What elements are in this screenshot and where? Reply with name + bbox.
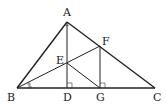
label-d: D (63, 91, 72, 104)
label-f: F (102, 35, 110, 48)
label-c: C (153, 91, 161, 104)
right-angle-mark-g (100, 83, 105, 88)
segment-bf (17, 46, 100, 88)
label-b: B (7, 91, 15, 104)
segment-ac (67, 22, 155, 88)
right-angle-mark-d (67, 83, 72, 88)
label-e: E (56, 54, 64, 67)
geometry-diagram: A B C D E F G (0, 0, 166, 105)
label-a: A (62, 6, 72, 19)
angle-mark-b-upper-icon (28, 83, 30, 85)
label-g: G (96, 91, 105, 104)
